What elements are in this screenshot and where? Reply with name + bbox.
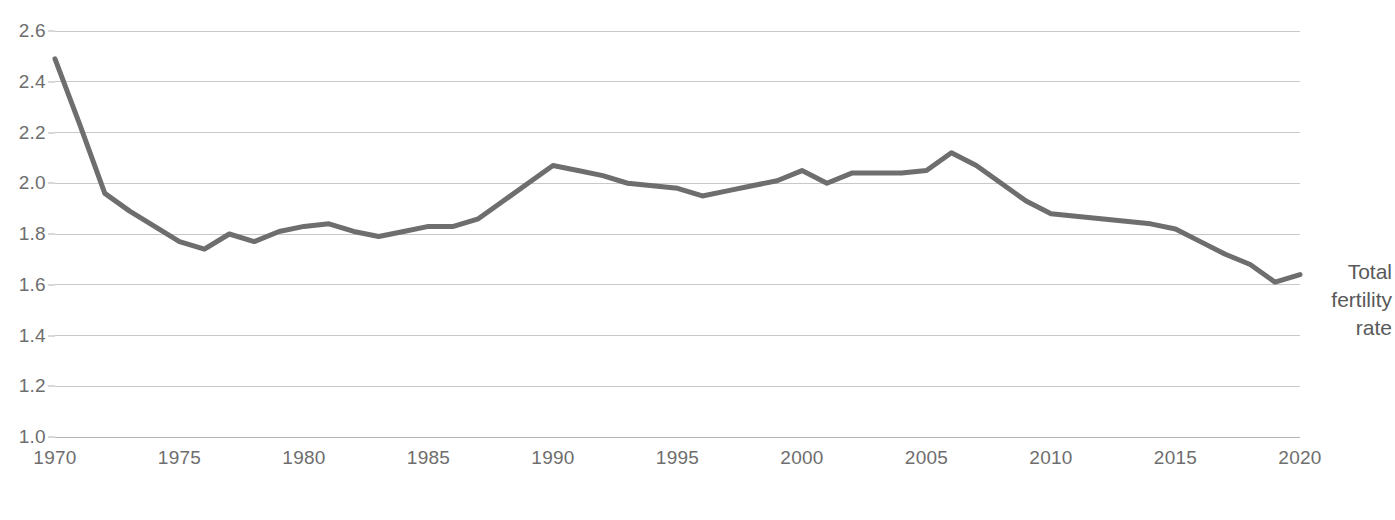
series-legend-label-line: Total xyxy=(1312,258,1392,286)
y-axis-tick-mark xyxy=(48,183,55,184)
x-axis-tick-label: 1995 xyxy=(656,447,699,469)
x-axis-tick-label: 1985 xyxy=(407,447,450,469)
y-axis-tick-mark xyxy=(48,386,55,387)
y-axis-tick-mark xyxy=(48,284,55,285)
fertility-rate-line-chart: 2.62.42.22.01.81.61.41.21.0 197019751980… xyxy=(0,0,1395,520)
data-line-total-fertility-rate xyxy=(55,59,1300,282)
y-axis-tick-mark xyxy=(48,132,55,133)
y-axis-tick-mark xyxy=(48,81,55,82)
series-legend-label-line: fertility xyxy=(1312,286,1392,314)
y-axis-tick-mark xyxy=(48,335,55,336)
series-layer xyxy=(55,31,1300,437)
x-axis-tick-label: 2010 xyxy=(1029,447,1072,469)
y-axis-tick-mark xyxy=(48,31,55,32)
x-axis-tick-label: 2015 xyxy=(1154,447,1197,469)
x-axis-tick-label: 1980 xyxy=(282,447,325,469)
x-axis-tick-label: 1990 xyxy=(531,447,574,469)
x-axis-tick-label: 2000 xyxy=(780,447,823,469)
x-axis-tick-label: 2020 xyxy=(1278,447,1321,469)
y-axis-tick-marks xyxy=(0,31,55,437)
series-legend-label-line: rate xyxy=(1312,314,1392,342)
series-legend-label: Totalfertilityrate xyxy=(1312,258,1392,342)
plot-area xyxy=(55,31,1300,437)
x-axis-tick-label: 2005 xyxy=(905,447,948,469)
y-axis-tick-mark xyxy=(48,437,55,438)
y-axis-tick-mark xyxy=(48,234,55,235)
x-axis-tick-label: 1970 xyxy=(33,447,76,469)
x-axis-tick-label: 1975 xyxy=(158,447,201,469)
x-axis-tick-labels: 1970197519801985199019952000200520102015… xyxy=(55,447,1300,477)
